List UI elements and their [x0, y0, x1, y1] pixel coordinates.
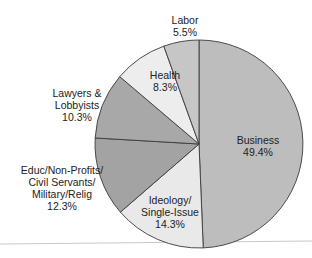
- label-health: Health 8.3%: [135, 69, 195, 93]
- label-ideology: Ideology/ Single-Issue 14.3%: [130, 194, 210, 230]
- label-labor-value: 5.5%: [160, 26, 210, 38]
- label-educ-name2: Civil Servants/: [0, 176, 124, 188]
- label-educ-name3: Military/Relig: [0, 188, 124, 200]
- label-labor: Labor 5.5%: [160, 14, 210, 38]
- label-lawyers-name2: Lobbyists: [42, 99, 112, 111]
- label-labor-name: Labor: [160, 14, 210, 26]
- label-health-name: Health: [135, 69, 195, 81]
- label-business-name: Business: [218, 134, 298, 146]
- label-educ-value: 12.3%: [0, 200, 124, 212]
- label-educ-name1: Educ/Non-Profits/: [0, 164, 124, 176]
- label-business: Business 49.4%: [218, 134, 298, 158]
- label-lawyers-name1: Lawyers &: [42, 87, 112, 99]
- label-educ: Educ/Non-Profits/ Civil Servants/ Milita…: [0, 164, 124, 212]
- label-ideology-name2: Single-Issue: [130, 206, 210, 218]
- baseline-rule: [0, 241, 312, 244]
- label-lawyers: Lawyers & Lobbyists 10.3%: [42, 87, 112, 123]
- label-ideology-name1: Ideology/: [130, 194, 210, 206]
- label-lawyers-value: 10.3%: [42, 111, 112, 123]
- label-ideology-value: 14.3%: [130, 218, 210, 230]
- label-health-value: 8.3%: [135, 81, 195, 93]
- label-business-value: 49.4%: [218, 146, 298, 158]
